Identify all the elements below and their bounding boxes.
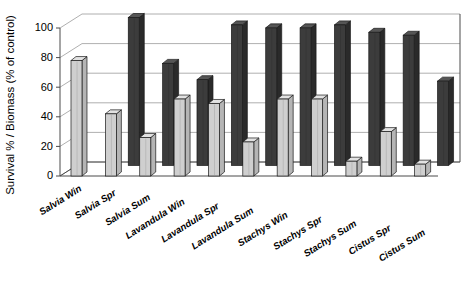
bar-survival-4-front-face xyxy=(208,103,219,176)
bar-survival-5 xyxy=(243,138,259,176)
bar-survival-5-front-face xyxy=(243,142,254,176)
bar-survival-9-front-face xyxy=(380,132,391,176)
y-tick-label-0: 0 xyxy=(47,169,53,181)
bar-survival-3-front-face xyxy=(174,99,185,176)
bar-survival-1-side-face xyxy=(116,110,121,176)
bar-survival-9 xyxy=(380,128,396,176)
bar-survival-3 xyxy=(174,95,190,176)
bar-survival-6-side-face xyxy=(288,95,293,176)
bar-survival-6 xyxy=(277,95,293,176)
bar-biomass-1-front-face xyxy=(128,18,139,166)
bar-biomass-3-front-face xyxy=(197,80,208,166)
bar-survival-2-front-face xyxy=(140,138,151,176)
bar-survival-0 xyxy=(71,57,87,176)
bar-survival-10-front-face xyxy=(415,164,426,176)
bar-biomass-9-front-face xyxy=(403,35,414,165)
bar-survival-3-side-face xyxy=(185,95,190,176)
bar-survival-7-side-face xyxy=(323,95,328,176)
bar-biomass-7 xyxy=(334,21,350,166)
bar-survival-4-side-face xyxy=(219,99,224,176)
bar-biomass-8-front-face xyxy=(369,32,380,165)
bar-biomass-10 xyxy=(438,77,454,165)
y-tick-label-60: 60 xyxy=(41,81,53,93)
bar-survival-10 xyxy=(415,160,431,176)
bar-biomass-4-front-face xyxy=(231,25,242,166)
chart-container: 020406080100 Salvia WinSalvia SprSalvia … xyxy=(0,0,474,294)
bar-biomass-7-side-face xyxy=(345,21,350,166)
y-axis-title: Survival % / Biomass (% of control) xyxy=(4,15,16,195)
y-tick-label-40: 40 xyxy=(41,110,53,122)
bar-survival-7-front-face xyxy=(312,99,323,176)
bar-survival-0-side-face xyxy=(82,57,87,176)
bar-biomass-9 xyxy=(403,31,419,165)
bar-survival-5-side-face xyxy=(254,138,259,176)
bar-biomass-7-front-face xyxy=(334,25,345,166)
bar-biomass-5-front-face xyxy=(266,28,277,166)
bar-biomass-10-front-face xyxy=(438,81,449,165)
bar-survival-8 xyxy=(346,157,362,176)
bar-chart: 020406080100 Salvia WinSalvia SprSalvia … xyxy=(0,0,474,294)
bar-survival-1-front-face xyxy=(105,114,116,176)
bar-biomass-2-front-face xyxy=(163,63,174,165)
bar-survival-9-side-face xyxy=(391,128,396,176)
y-tick-label-80: 80 xyxy=(41,51,53,63)
bar-survival-2 xyxy=(140,134,156,176)
bar-survival-2-side-face xyxy=(151,134,156,176)
bar-survival-8-front-face xyxy=(346,161,357,176)
y-tick-label-20: 20 xyxy=(41,140,53,152)
bar-survival-0-front-face xyxy=(71,61,82,176)
bar-survival-4 xyxy=(208,99,224,176)
bar-survival-7 xyxy=(312,95,328,176)
bar-biomass-9-side-face xyxy=(414,31,419,165)
bar-biomass-6-front-face xyxy=(300,28,311,166)
bar-survival-1 xyxy=(105,110,121,176)
bar-survival-6-front-face xyxy=(277,99,288,176)
y-tick-label-100: 100 xyxy=(35,21,53,33)
bar-biomass-10-side-face xyxy=(449,77,454,165)
